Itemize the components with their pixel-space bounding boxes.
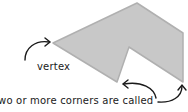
polygon-shape xyxy=(53,3,183,82)
vertex-arrow-icon xyxy=(25,38,50,60)
corner-arrow-2-icon xyxy=(158,85,186,102)
caption-text: wo or more corners are called xyxy=(0,95,153,106)
vertex-label: vertex xyxy=(37,61,70,72)
